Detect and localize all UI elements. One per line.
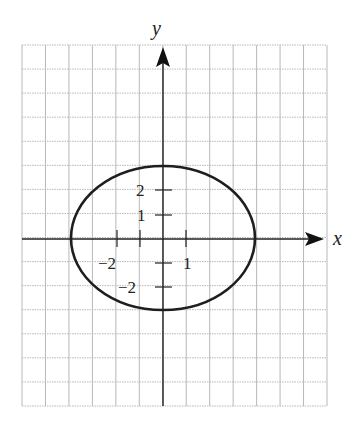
coordinate-graph: y x −2 1 2 1 −2 (0, 0, 353, 430)
x-axis-label: x (332, 227, 342, 249)
y-tick-label-2: 2 (136, 181, 145, 200)
y-tick-label-1: 1 (137, 206, 146, 225)
y-axis-label: y (150, 17, 161, 40)
grid (22, 45, 327, 406)
x-tick-label-neg2: −2 (98, 254, 116, 273)
x-tick-label-1: 1 (183, 254, 192, 273)
y-tick-label-neg2: −2 (118, 278, 136, 297)
